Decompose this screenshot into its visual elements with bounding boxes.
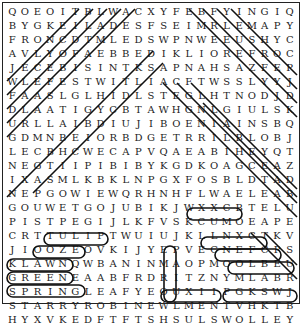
letter-cell[interactable]: A	[94, 19, 107, 33]
letter-cell[interactable]: O	[56, 187, 69, 201]
letter-cell[interactable]: B	[94, 173, 107, 187]
letter-cell[interactable]: L	[82, 285, 95, 299]
letter-cell[interactable]: P	[195, 257, 208, 271]
letter-cell[interactable]: N	[183, 33, 196, 47]
letter-cell[interactable]: C	[246, 159, 259, 173]
letter-cell[interactable]: P	[19, 285, 32, 299]
letter-cell[interactable]: L	[271, 201, 284, 215]
letter-cell[interactable]: G	[6, 271, 19, 285]
letter-cell[interactable]: B	[271, 117, 284, 131]
letter-cell[interactable]: I	[56, 159, 69, 173]
letter-cell[interactable]: A	[195, 145, 208, 159]
letter-cell[interactable]: J	[271, 89, 284, 103]
letter-cell[interactable]: A	[233, 61, 246, 75]
letter-cell[interactable]: G	[69, 285, 82, 299]
letter-cell[interactable]: O	[44, 5, 57, 19]
letter-cell[interactable]: L	[56, 89, 69, 103]
letter-cell[interactable]: B	[283, 299, 296, 313]
letter-cell[interactable]: M	[94, 33, 107, 47]
letter-cell[interactable]: L	[94, 5, 107, 19]
letter-cell[interactable]: B	[233, 201, 246, 215]
letter-cell[interactable]: R	[56, 299, 69, 313]
letter-cell[interactable]: D	[145, 271, 158, 285]
letter-cell[interactable]: E	[94, 145, 107, 159]
letter-cell[interactable]: G	[183, 89, 196, 103]
letter-cell[interactable]: J	[132, 243, 145, 257]
letter-cell[interactable]: S	[283, 243, 296, 257]
letter-cell[interactable]: I	[208, 131, 221, 145]
letter-cell[interactable]: D	[132, 33, 145, 47]
letter-cell[interactable]: L	[246, 75, 259, 89]
letter-cell[interactable]: H	[258, 33, 271, 47]
letter-cell[interactable]: W	[6, 75, 19, 89]
letter-cell[interactable]: U	[119, 201, 132, 215]
letter-cell[interactable]: Q	[69, 257, 82, 271]
letter-cell[interactable]: S	[145, 89, 158, 103]
letter-cell[interactable]: E	[271, 61, 284, 75]
letter-cell[interactable]: E	[94, 187, 107, 201]
letter-cell[interactable]: T	[31, 229, 44, 243]
letter-cell[interactable]: E	[183, 117, 196, 131]
letter-cell[interactable]: I	[6, 173, 19, 187]
letter-cell[interactable]: Q	[283, 5, 296, 19]
letter-cell[interactable]: L	[195, 187, 208, 201]
letter-cell[interactable]: Y	[220, 5, 233, 19]
letter-cell[interactable]: H	[145, 187, 158, 201]
letter-cell[interactable]: U	[56, 229, 69, 243]
letter-cell[interactable]: D	[283, 173, 296, 187]
letter-cell[interactable]: Y	[258, 75, 271, 89]
letter-cell[interactable]: B	[107, 299, 120, 313]
letter-cell[interactable]: B	[82, 117, 95, 131]
letter-cell[interactable]: D	[258, 89, 271, 103]
letter-cell[interactable]: L	[246, 313, 259, 327]
letter-cell[interactable]: Z	[195, 271, 208, 285]
letter-cell[interactable]: W	[82, 257, 95, 271]
letter-cell[interactable]: U	[246, 103, 259, 117]
letter-cell[interactable]: T	[183, 271, 196, 285]
letter-cell[interactable]: P	[82, 159, 95, 173]
letter-cell[interactable]: E	[145, 285, 158, 299]
letter-cell[interactable]: K	[183, 229, 196, 243]
letter-cell[interactable]: E	[44, 271, 57, 285]
letter-cell[interactable]: B	[107, 271, 120, 285]
letter-cell[interactable]: L	[258, 313, 271, 327]
letter-cell[interactable]: P	[94, 229, 107, 243]
letter-cell[interactable]: M	[31, 131, 44, 145]
letter-cell[interactable]: W	[271, 285, 284, 299]
letter-cell[interactable]: W	[107, 5, 120, 19]
letter-cell[interactable]: D	[132, 131, 145, 145]
letter-cell[interactable]: A	[258, 19, 271, 33]
letter-cell[interactable]: A	[119, 5, 132, 19]
letter-cell[interactable]: C	[56, 33, 69, 47]
letter-cell[interactable]: A	[82, 47, 95, 61]
letter-cell[interactable]: G	[220, 103, 233, 117]
letter-cell[interactable]: U	[157, 229, 170, 243]
letter-cell[interactable]: L	[31, 47, 44, 61]
letter-cell[interactable]: D	[119, 89, 132, 103]
letter-cell[interactable]: T	[258, 229, 271, 243]
letter-cell[interactable]: W	[82, 145, 95, 159]
letter-cell[interactable]: T	[19, 299, 32, 313]
letter-cell[interactable]: L	[195, 229, 208, 243]
letter-cell[interactable]: V	[157, 215, 170, 229]
letter-cell[interactable]: H	[56, 145, 69, 159]
letter-cell[interactable]: G	[31, 159, 44, 173]
letter-cell[interactable]: S	[69, 75, 82, 89]
letter-cell[interactable]: E	[44, 61, 57, 75]
letter-cell[interactable]: K	[195, 159, 208, 173]
letter-cell[interactable]: T	[132, 103, 145, 117]
letter-cell[interactable]: E	[56, 75, 69, 89]
letter-cell[interactable]: X	[183, 285, 196, 299]
letter-cell[interactable]: U	[6, 117, 19, 131]
letter-cell[interactable]: A	[220, 117, 233, 131]
letter-cell[interactable]: N	[195, 117, 208, 131]
letter-cell[interactable]: V	[183, 243, 196, 257]
letter-cell[interactable]: R	[157, 271, 170, 285]
letter-cell[interactable]: S	[132, 19, 145, 33]
letter-cell[interactable]: M	[183, 299, 196, 313]
letter-cell[interactable]: L	[258, 103, 271, 117]
letter-cell[interactable]: I	[119, 299, 132, 313]
letter-cell[interactable]: F	[145, 19, 158, 33]
letter-cell[interactable]: P	[56, 215, 69, 229]
letter-cell[interactable]: R	[258, 47, 271, 61]
